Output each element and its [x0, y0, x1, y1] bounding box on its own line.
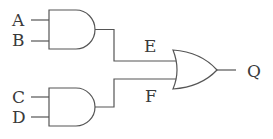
or-gate-body [173, 50, 217, 89]
and-gate-top-body [49, 10, 95, 49]
label-a: A [11, 10, 25, 30]
wire-e [95, 30, 177, 62]
or-gate [173, 50, 236, 89]
logic-circuit-diagram: A B C D E F Q [0, 0, 273, 139]
and-gate-top [31, 10, 95, 49]
wire-f [95, 79, 177, 107]
label-d: D [12, 107, 26, 127]
label-e: E [144, 36, 156, 56]
label-q: Q [247, 61, 261, 81]
label-c: C [12, 87, 25, 107]
circuit-svg: A B C D E F Q [0, 0, 273, 139]
label-f: F [145, 86, 157, 106]
label-b: B [12, 30, 25, 50]
and-gate-bottom [31, 88, 95, 126]
and-gate-bottom-body [49, 88, 95, 126]
